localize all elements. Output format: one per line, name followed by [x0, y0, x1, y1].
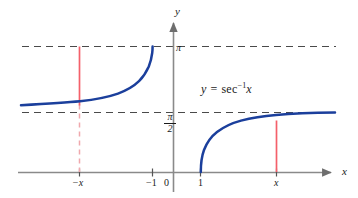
x-tick-label-origin: 0 [164, 178, 169, 188]
plot-canvas [0, 0, 358, 198]
y-tick-label-pi: π [176, 43, 181, 53]
equation-equals: = [207, 82, 222, 96]
pi-over-two-numerator: π [164, 112, 176, 123]
x-tick-label-x: x [274, 178, 278, 188]
equation-function-name: sec [222, 82, 238, 96]
equation-lhs: y [201, 82, 207, 96]
curve-right-branch [201, 113, 335, 172]
pi-over-two-denominator: 2 [164, 124, 176, 135]
equation-argument: x [246, 82, 252, 96]
y-axis-label: y [175, 6, 180, 17]
x-tick-label-minus-one: −1 [146, 178, 157, 188]
x-tick-label-one: 1 [198, 178, 203, 188]
curve-left-branch [21, 47, 153, 106]
sec-inverse-graph-figure: y x π π 2 −x −1 0 1 x y=sec−1x [0, 0, 358, 198]
x-tick-label-minus-x: −x [72, 178, 83, 188]
y-tick-label-pi-over-two: π 2 [164, 112, 176, 134]
x-axis-label: x [342, 166, 347, 177]
function-equation-label: y=sec−1x [201, 82, 252, 95]
